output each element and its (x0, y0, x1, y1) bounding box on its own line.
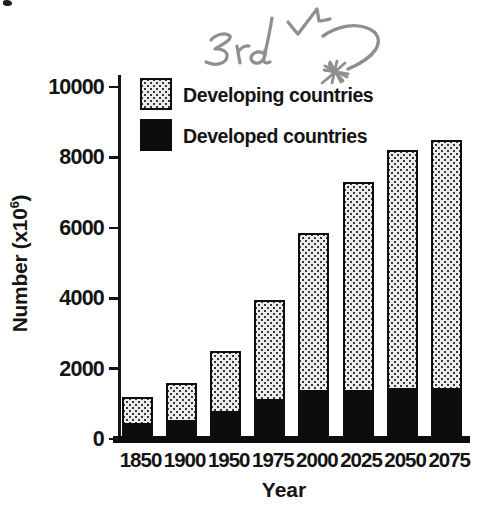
legend-label-developed: Developed countries (183, 125, 367, 147)
bar-segment-developing-1900 (168, 385, 195, 420)
x-tick-label-2050: 2050 (380, 449, 430, 471)
y-tick-label-10000: 10000 (34, 76, 104, 98)
x-tick-label-2000: 2000 (292, 449, 342, 471)
y-axis-title-close-paren: ) (8, 195, 31, 202)
bar-segment-developed-1900 (168, 420, 195, 439)
legend-swatch-developing-icon (140, 78, 172, 110)
bar-2000 (298, 233, 329, 439)
x-axis-title: Year (254, 478, 314, 502)
y-axis-title-superscript: 6 (7, 201, 22, 208)
y-tick-label-6000: 6000 (34, 217, 104, 239)
y-axis-title: Number (x106) (7, 164, 32, 364)
handwritten-w (288, 9, 330, 34)
y-tick-6000 (109, 227, 119, 230)
bar-segment-developing-2025 (345, 184, 372, 390)
x-tick-label-2025: 2025 (336, 449, 386, 471)
handwritten-r (237, 46, 249, 63)
bar-segment-developing-1950 (212, 353, 239, 411)
x-tick-label-1950: 1950 (204, 449, 254, 471)
bar-segment-developed-1975 (256, 399, 283, 440)
legend-swatch-developed-icon (140, 119, 172, 151)
ink-smudge (3, 0, 12, 6)
bar-1950 (210, 351, 241, 439)
bar-2075 (431, 140, 462, 439)
arrowhead-scribble (322, 61, 348, 83)
y-tick-4000 (109, 297, 119, 300)
bar-1975 (254, 300, 285, 439)
bar-segment-developed-2000 (300, 390, 327, 439)
bar-segment-developing-2000 (300, 235, 327, 390)
y-axis-title-text: Number (x10 (8, 208, 31, 332)
bar-segment-developed-1850 (124, 423, 151, 439)
bar-segment-developing-1975 (256, 302, 283, 399)
bar-1850 (122, 397, 153, 439)
y-tick-10000 (109, 86, 119, 89)
y-tick-label-8000: 8000 (34, 146, 104, 168)
bar-2025 (343, 182, 374, 439)
y-tick-2000 (109, 367, 119, 370)
y-tick-8000 (109, 156, 119, 159)
y-tick-label-0: 0 (34, 428, 104, 450)
legend-label-developing: Developing countries (183, 84, 373, 106)
bar-segment-developing-1850 (124, 399, 151, 423)
figure-population-growth-chart: Number (x106) 0200040006000800010000 185… (0, 0, 477, 512)
bar-segment-developed-1950 (212, 411, 239, 439)
handwritten-3 (206, 34, 230, 64)
x-tick-label-1975: 1975 (248, 449, 298, 471)
bar-segment-developing-2050 (389, 152, 416, 388)
y-tick-0 (109, 438, 119, 441)
bar-2050 (387, 150, 418, 439)
handwritten-d (251, 18, 272, 63)
bar-segment-developing-2075 (433, 142, 460, 388)
x-tick-label-1900: 1900 (160, 449, 210, 471)
x-tick-label-1850: 1850 (116, 449, 166, 471)
y-tick-label-2000: 2000 (34, 358, 104, 380)
x-tick-label-2075: 2075 (424, 449, 474, 471)
bar-segment-developed-2050 (389, 388, 416, 439)
bar-segment-developed-2025 (345, 390, 372, 439)
handwritten-arrow (323, 26, 378, 69)
y-axis-line (118, 75, 121, 439)
y-tick-label-4000: 4000 (34, 287, 104, 309)
bar-1900 (166, 383, 197, 439)
bar-segment-developed-2075 (433, 388, 460, 439)
